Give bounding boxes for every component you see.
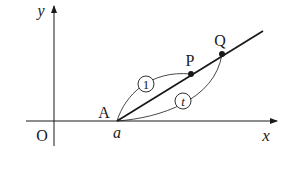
- point-q-dot: [219, 51, 225, 57]
- diagram-canvas: 1 t A P Q y x O a: [0, 0, 295, 178]
- point-p-dot: [188, 71, 194, 77]
- arc-label-1: 1: [143, 77, 150, 92]
- x-axis-label: x: [261, 126, 270, 145]
- a-value-label: a: [113, 124, 121, 141]
- point-p-label: P: [186, 52, 195, 69]
- point-q-label: Q: [214, 32, 226, 49]
- arc-label-t: t: [181, 94, 185, 109]
- y-axis-label: y: [35, 2, 45, 20]
- origin-label: O: [36, 127, 48, 144]
- point-a-label: A: [98, 104, 110, 121]
